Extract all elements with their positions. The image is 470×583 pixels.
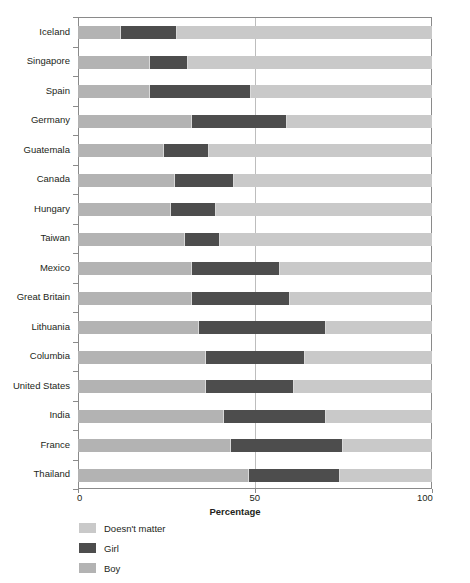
bar-segment-girl	[198, 321, 325, 334]
legend-label: Boy	[104, 563, 120, 574]
stacked-bar	[78, 203, 432, 216]
legend: Doesn't matterGirlBoy	[79, 518, 329, 578]
bar-segment-boy	[78, 85, 149, 98]
bar-row	[78, 194, 432, 224]
bar-segment-boy	[78, 26, 120, 39]
y-axis-tick	[73, 165, 78, 166]
bar-segment-boy	[78, 469, 248, 482]
bar-segment-girl	[230, 439, 343, 452]
bar-segment-doesnt-matter	[234, 174, 432, 187]
stacked-bar	[78, 439, 432, 452]
bar-segment-boy	[78, 262, 191, 275]
stacked-bar	[78, 56, 432, 69]
y-axis-label: Singapore	[0, 55, 70, 66]
bar-segment-doesnt-matter	[290, 292, 432, 305]
stacked-bar	[78, 321, 432, 334]
bar-segment-boy	[78, 351, 205, 364]
bar-segment-doesnt-matter	[340, 469, 432, 482]
bar-segment-girl	[223, 410, 326, 423]
y-axis-tick	[73, 76, 78, 77]
bar-segment-girl	[191, 292, 290, 305]
y-axis-label: Hungary	[0, 203, 70, 214]
legend-swatch	[79, 523, 96, 533]
bar-row	[78, 342, 432, 372]
stacked-bar	[78, 144, 432, 157]
y-axis-tick	[73, 460, 78, 461]
y-axis-tick	[73, 342, 78, 343]
y-axis-label: Mexico	[0, 262, 70, 273]
bar-segment-doesnt-matter	[177, 26, 432, 39]
bar-segment-girl	[174, 174, 234, 187]
bar-segment-girl	[149, 85, 252, 98]
bar-row	[78, 47, 432, 77]
y-axis-label: France	[0, 439, 70, 450]
bar-row	[78, 371, 432, 401]
stacked-bar	[78, 410, 432, 423]
x-axis-tick-label: 100	[417, 492, 433, 503]
legend-swatch	[79, 563, 96, 573]
bar-rows-layer	[78, 17, 432, 489]
bar-segment-doesnt-matter	[220, 233, 432, 246]
bar-row	[78, 430, 432, 460]
stacked-bar	[78, 292, 432, 305]
bar-row	[78, 76, 432, 106]
bar-segment-doesnt-matter	[209, 144, 432, 157]
y-axis-label: Great Britain	[0, 291, 70, 302]
bar-row	[78, 253, 432, 283]
y-axis-label: Spain	[0, 85, 70, 96]
bar-segment-girl	[191, 115, 287, 128]
bar-row	[78, 135, 432, 165]
bar-segment-doesnt-matter	[280, 262, 432, 275]
bar-segment-doesnt-matter	[343, 439, 432, 452]
bar-row	[78, 165, 432, 195]
bar-segment-doesnt-matter	[287, 115, 432, 128]
y-axis-tick	[73, 371, 78, 372]
bar-segment-doesnt-matter	[251, 85, 432, 98]
stacked-bar	[78, 233, 432, 246]
bar-segment-doesnt-matter	[326, 321, 432, 334]
bar-segment-girl	[191, 262, 280, 275]
legend-item[interactable]: Girl	[79, 538, 329, 558]
legend-label: Girl	[104, 543, 119, 554]
bar-segment-boy	[78, 410, 223, 423]
y-axis-tick	[73, 283, 78, 284]
bar-segment-boy	[78, 56, 149, 69]
bar-segment-doesnt-matter	[216, 203, 432, 216]
bar-segment-girl	[163, 144, 209, 157]
stacked-bar-chart: IcelandSingaporeSpainGermanyGuatemalaCan…	[0, 0, 470, 583]
bar-segment-girl	[184, 233, 219, 246]
legend-item[interactable]: Doesn't matter	[79, 518, 329, 538]
bar-segment-doesnt-matter	[188, 56, 432, 69]
x-axis-tick-label: 0	[77, 492, 82, 503]
bar-segment-doesnt-matter	[305, 351, 432, 364]
y-axis-tick	[73, 312, 78, 313]
y-axis-tick	[73, 17, 78, 18]
y-axis-label: India	[0, 409, 70, 420]
bar-segment-girl	[120, 26, 177, 39]
bar-segment-boy	[78, 203, 170, 216]
stacked-bar	[78, 469, 432, 482]
stacked-bar	[78, 380, 432, 393]
y-axis-tick	[73, 253, 78, 254]
y-axis-label: Iceland	[0, 26, 70, 37]
y-axis-tick	[73, 194, 78, 195]
y-axis-label: Thailand	[0, 468, 70, 479]
bar-row	[78, 17, 432, 47]
bar-segment-boy	[78, 380, 205, 393]
y-axis-label: Lithuania	[0, 321, 70, 332]
bar-segment-boy	[78, 321, 198, 334]
y-axis-label: Canada	[0, 173, 70, 184]
y-axis-label: United States	[0, 380, 70, 391]
bar-segment-doesnt-matter	[326, 410, 432, 423]
stacked-bar	[78, 174, 432, 187]
stacked-bar	[78, 262, 432, 275]
y-axis-label: Taiwan	[0, 232, 70, 243]
x-axis-tick-label: 50	[250, 492, 261, 503]
bar-segment-boy	[78, 233, 184, 246]
x-axis-title: Percentage	[0, 506, 470, 517]
y-axis-tick	[73, 135, 78, 136]
legend-item[interactable]: Boy	[79, 558, 329, 578]
bar-row	[78, 401, 432, 431]
bar-segment-boy	[78, 292, 191, 305]
y-axis-tick	[73, 430, 78, 431]
